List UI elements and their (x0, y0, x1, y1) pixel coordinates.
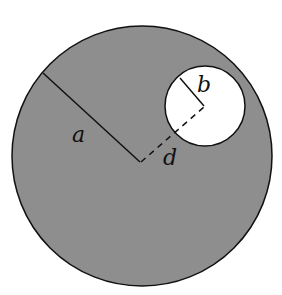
diagram-canvas: a b d (0, 0, 282, 295)
label-b: b (197, 72, 211, 97)
label-d: d (163, 145, 177, 170)
large-circle (12, 26, 272, 286)
label-a: a (72, 122, 85, 147)
